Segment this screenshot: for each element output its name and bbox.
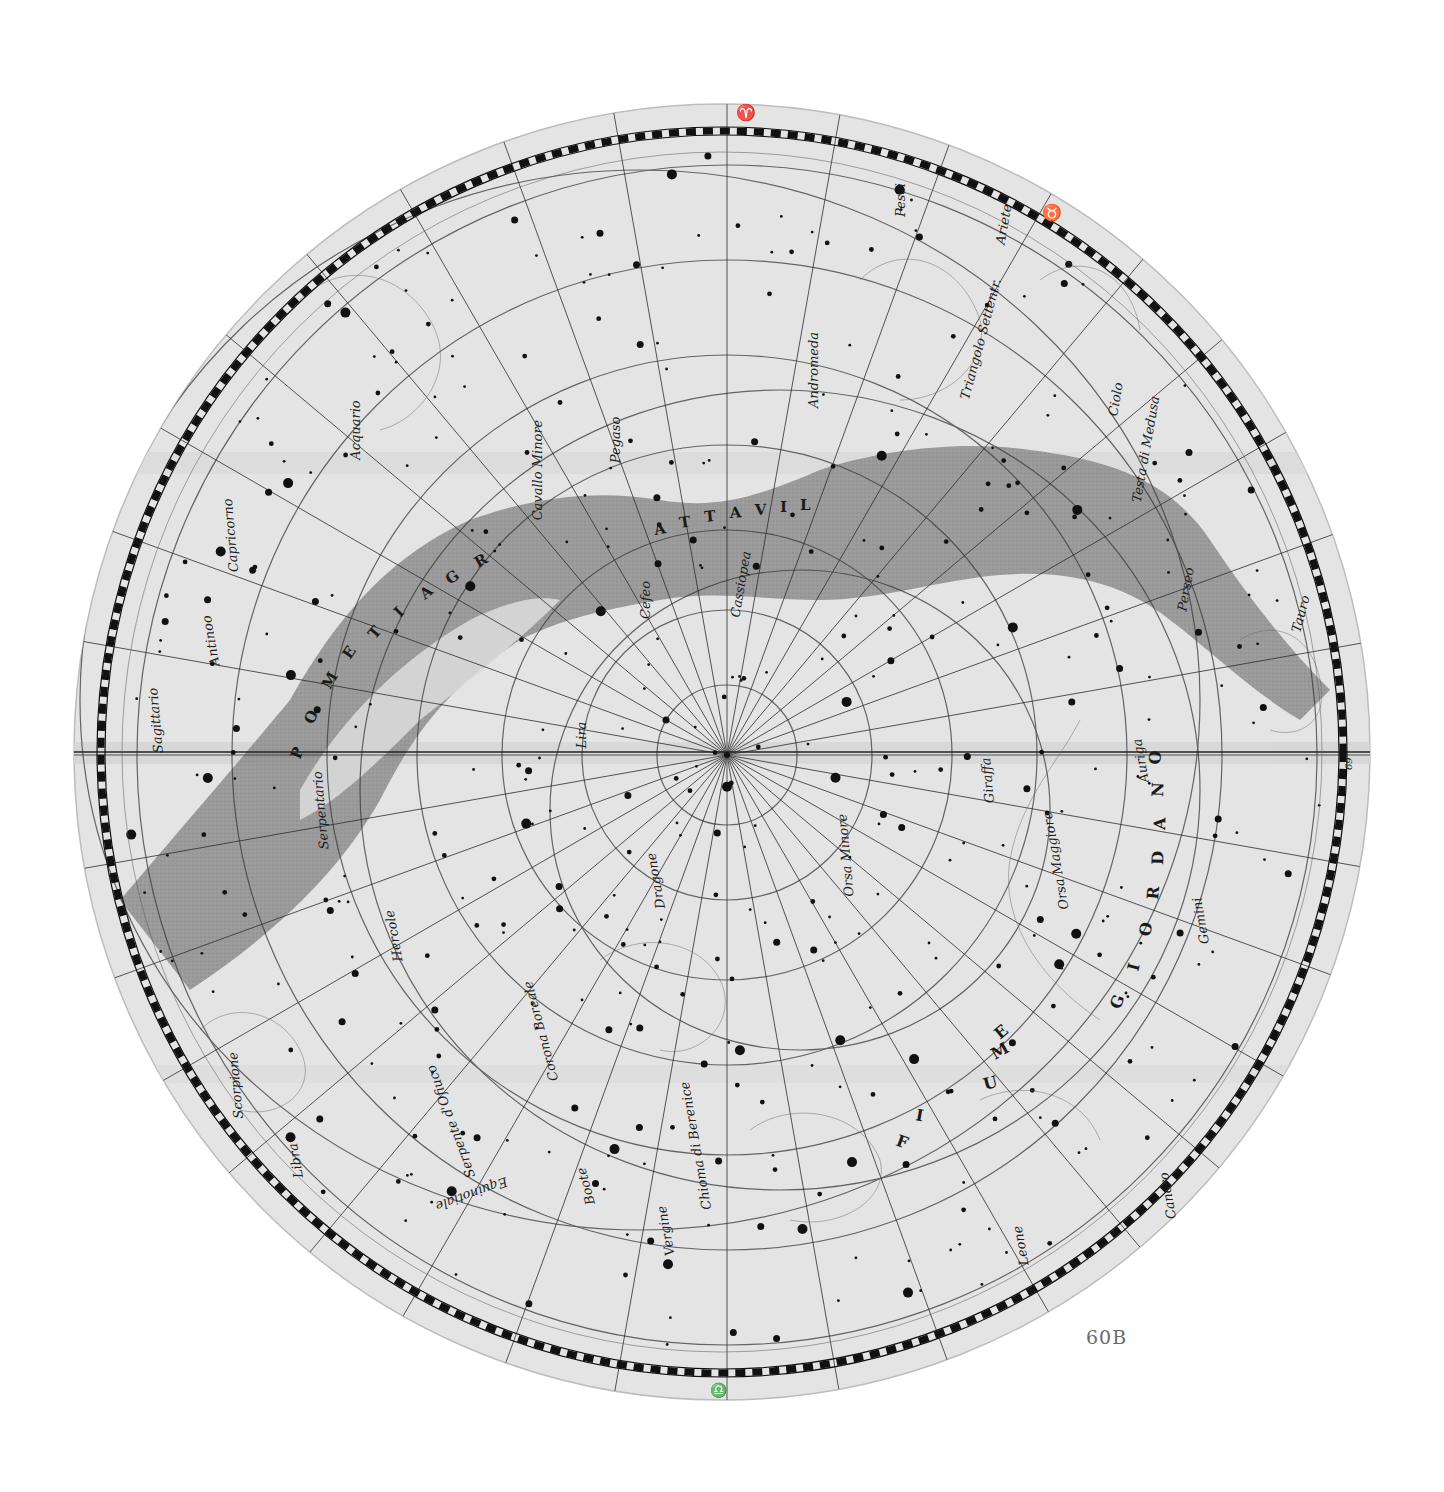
libra-symbol: ♎: [710, 1382, 727, 1399]
constellation-label: Lira: [574, 722, 589, 750]
constellation-label: Acquario: [348, 400, 363, 460]
aries-symbol: ♈: [736, 103, 756, 122]
constellation-label: Cefeo: [638, 581, 653, 619]
constellation-label: Cavallo Minore: [530, 419, 545, 520]
band-letter: R: [1143, 885, 1163, 901]
celestial-map: PesciArieteAndromedaTriangolo Settentr.C…: [0, 0, 1444, 1492]
constellation-label: Pesci: [893, 183, 908, 218]
band-letter: N: [1148, 782, 1167, 797]
band-letter: I: [780, 498, 787, 516]
right-number: 69: [1343, 757, 1354, 770]
ecliptic-pole: [724, 752, 730, 758]
constellation-label: Andromeda: [806, 332, 821, 409]
constellation-label: Pegaso: [608, 417, 623, 465]
band-letter: V: [754, 501, 768, 519]
plate-number: 60B: [1086, 1326, 1127, 1348]
band-letter: A: [1150, 816, 1169, 831]
band-letter: L: [800, 496, 811, 514]
taurus-symbol: ♉: [1042, 203, 1062, 222]
band-letter: O: [1145, 750, 1165, 766]
band-letter: D: [1148, 850, 1167, 865]
band-letter: A: [728, 503, 742, 522]
